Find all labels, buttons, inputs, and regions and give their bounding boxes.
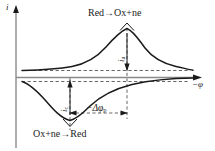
cathodic-reaction-label: Ox+ne→Red <box>33 129 86 139</box>
anodic-reaction-label: Red→Ox+ne <box>88 8 141 18</box>
anodic-current-subscript: a <box>119 57 126 60</box>
peak-separation-label: −Δφp <box>86 104 107 114</box>
anodic-curve <box>22 29 193 71</box>
cathodic-current-label: ic <box>60 107 70 112</box>
anodic-current-symbol: i <box>116 59 126 62</box>
peak-separation-symbol: −Δφ <box>86 103 103 113</box>
anodic-current-label: ia <box>117 57 127 62</box>
axes-group <box>13 5 202 148</box>
peak-separation-subscript: p <box>103 106 106 113</box>
y-axis-label: i <box>6 3 9 12</box>
voltammogram-figure: i −φ Red→Ox+ne Ox+ne→Red ia ic −Δφp <box>0 0 215 151</box>
ic-arrowhead <box>67 80 72 88</box>
cathodic-curve <box>22 78 193 120</box>
cathodic-current-subscript: c <box>62 107 69 110</box>
cathodic-current-symbol: i <box>59 109 69 112</box>
x-axis-label: −φ <box>192 80 203 89</box>
y-axis-arrowhead <box>13 5 19 13</box>
